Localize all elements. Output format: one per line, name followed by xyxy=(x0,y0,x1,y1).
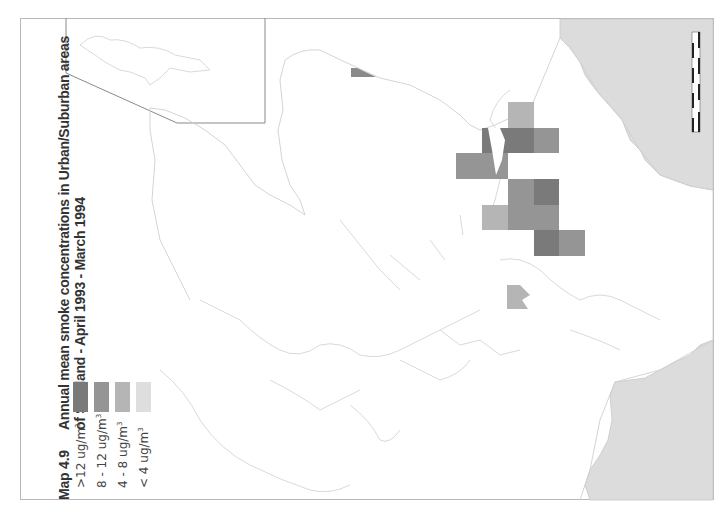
legend-label-gt12: >12 ug/m3 xyxy=(74,423,88,488)
cell-4-8 xyxy=(507,285,530,309)
cell-gt12 xyxy=(534,179,559,205)
west-coast-islands xyxy=(160,90,660,492)
neighbour-land-south xyxy=(585,340,713,500)
cell-8-12 xyxy=(508,179,534,205)
legend-label-4-8: 4 - 8 ug/m3 xyxy=(116,422,130,488)
legend-swatch-8-12 xyxy=(94,382,109,412)
legend-swatch-lt4 xyxy=(136,382,151,412)
legend-swatch-4-8 xyxy=(115,382,130,412)
cell-gt12 xyxy=(508,128,534,153)
map-number: Map 4.9 xyxy=(56,450,72,500)
legend-swatch-gt12 xyxy=(73,382,88,412)
cell-8-12 xyxy=(351,68,376,77)
cell-8-12 xyxy=(508,205,559,230)
legend-label-lt4: < 4 ug/m3 xyxy=(137,427,151,488)
cell-8-12 xyxy=(559,230,585,256)
map-title-line1: Annual mean smoke concentrations in Urba… xyxy=(56,36,72,430)
cell-8-12 xyxy=(534,128,559,153)
inset-box xyxy=(66,18,265,123)
cell-4-8 xyxy=(508,102,534,128)
cell-gt12 xyxy=(534,230,559,256)
cell-4-8 xyxy=(482,205,508,230)
scale-bar xyxy=(692,32,700,132)
shetland-outline xyxy=(80,36,210,85)
legend-label-8-12: 8 - 12 ug/m3 xyxy=(95,414,109,488)
neighbour-land-north xyxy=(560,19,713,190)
data-cells xyxy=(351,68,585,309)
